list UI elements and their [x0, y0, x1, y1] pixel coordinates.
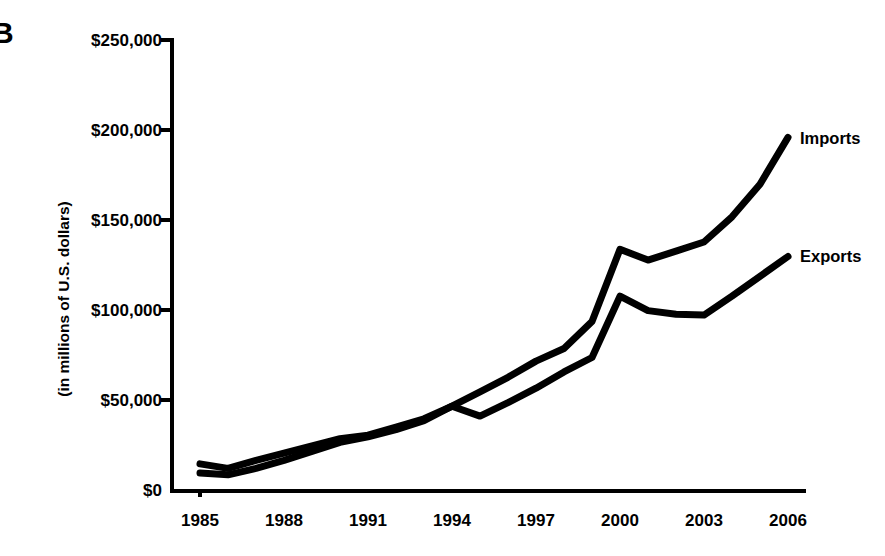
imports-line — [200, 137, 788, 468]
plot-area — [0, 0, 885, 556]
exports-line — [200, 257, 788, 475]
chart-figure: B (in millions of U.S. dollars) $0 $50,0… — [0, 0, 885, 556]
series-label-imports: Imports — [800, 130, 861, 147]
series-label-exports: Exports — [800, 248, 861, 265]
